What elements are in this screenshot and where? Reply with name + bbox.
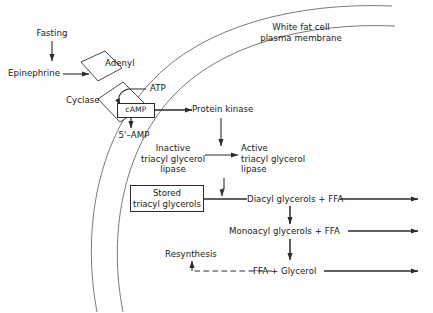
label-adenyl: Adenyl (105, 58, 135, 69)
diagram-canvas: Fasting Epinephrine Adenyl Cyclase ATP c… (0, 0, 433, 313)
label-active-triacyl-glycerol-lipase: Active triacyl glycerol lipase (241, 143, 307, 175)
node-stored-triacyl-glycerols: Stored triacyl glycerols (130, 185, 204, 212)
node-camp-box: cAMP (117, 103, 155, 118)
label-atp: ATP (150, 83, 166, 94)
diagram-vector-layer (0, 0, 433, 313)
label-active-line1: Active (241, 143, 268, 153)
label-ffa-glycerol: FFA + Glycerol (253, 266, 316, 277)
label-protein-kinase: Protein kinase (192, 104, 253, 115)
label-inactive-line2: triacyl glycerol (141, 154, 205, 164)
label-fasting: Fasting (37, 28, 68, 39)
label-stored-line1: Stored (153, 188, 181, 198)
label-stored-line2: triacyl glycerols (133, 199, 201, 209)
label-active-line3: lipase (241, 164, 267, 174)
label-plasma-membrane-line1: White fat cell (272, 22, 330, 32)
label-resynthesis: Resynthesis (165, 249, 217, 260)
label-inactive-triacyl-glycerol-lipase: Inactive triacyl glycerol lipase (140, 143, 206, 175)
label-plasma-membrane: White fat cell plasma membrane (246, 22, 356, 43)
label-plasma-membrane-line2: plasma membrane (260, 33, 342, 43)
label-5-amp: 5'–AMP (119, 130, 150, 141)
label-monoacyl-glycerols-ffa: Monoacyl glycerols + FFA (229, 226, 340, 237)
line-active-lipase-elbow (222, 178, 224, 189)
label-active-line2: triacyl glycerol (241, 154, 305, 164)
label-inactive-line3: lipase (160, 164, 186, 174)
label-cyclase: Cyclase (66, 95, 100, 106)
label-inactive-line1: Inactive (156, 143, 191, 153)
label-diacyl-glycerols-ffa: Diacyl glycerols + FFA (247, 194, 343, 205)
label-epinephrine: Epinephrine (8, 68, 60, 79)
